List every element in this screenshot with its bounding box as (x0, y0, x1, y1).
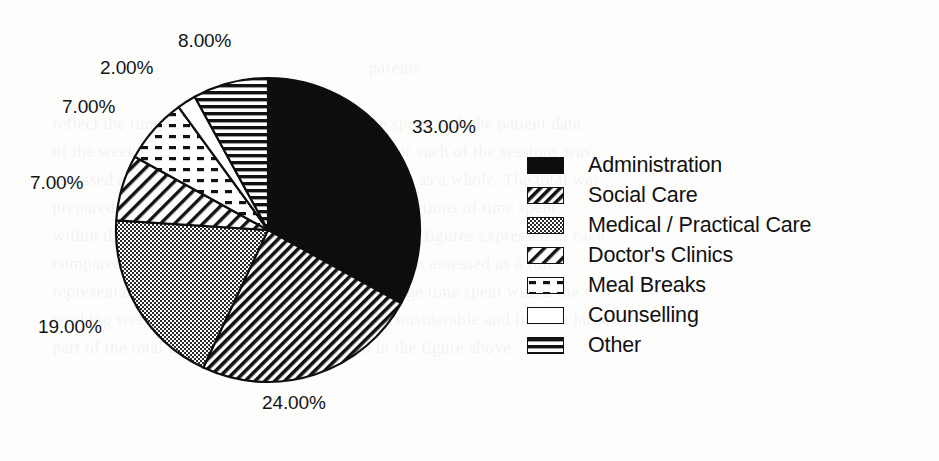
legend-row[interactable]: Doctor's Clinics (527, 240, 927, 270)
label-other: 8.00% (178, 30, 231, 52)
legend-label: Medical / Practical Care (588, 213, 811, 238)
legend-label: Doctor's Clinics (588, 243, 733, 268)
legend-swatch-medical-practical-care (527, 217, 564, 234)
legend-swatch-counselling (527, 307, 564, 324)
legend-row[interactable]: Other (527, 330, 927, 360)
label-administration: 33.00% (412, 116, 476, 138)
legend-row[interactable]: Administration (527, 150, 927, 180)
legend-swatch-other (527, 337, 564, 354)
legend-row[interactable]: Counselling (527, 300, 927, 330)
label-medical-practical-care: 19.00% (38, 316, 102, 338)
legend-row[interactable]: Medical / Practical Care (527, 210, 927, 240)
legend-row[interactable]: Meal Breaks (527, 270, 927, 300)
legend-label: Meal Breaks (588, 273, 706, 298)
legend-row[interactable]: Social Care (527, 180, 927, 210)
legend-label: Counselling (588, 303, 699, 328)
legend: AdministrationSocial CareMedical / Pract… (527, 150, 927, 360)
figure-root: parents reflect the time spent on the wa… (0, 0, 939, 461)
label-social-care: 24.00% (262, 392, 326, 414)
legend-swatch-doctors-clinics (527, 247, 564, 264)
legend-swatch-meal-breaks (527, 277, 564, 294)
legend-swatch-administration (527, 157, 564, 174)
legend-label: Administration (588, 153, 722, 178)
legend-swatch-social-care (527, 187, 564, 204)
pie-chart-area: 33.00%24.00%19.00%7.00%7.00%2.00%8.00% (0, 0, 520, 461)
legend-label: Social Care (588, 183, 697, 208)
label-counselling: 2.00% (100, 57, 153, 79)
legend-label: Other (588, 333, 641, 358)
label-doctors-clinics: 7.00% (30, 172, 83, 194)
label-meal-breaks: 7.00% (62, 96, 115, 118)
pie-chart-svg (0, 0, 520, 461)
